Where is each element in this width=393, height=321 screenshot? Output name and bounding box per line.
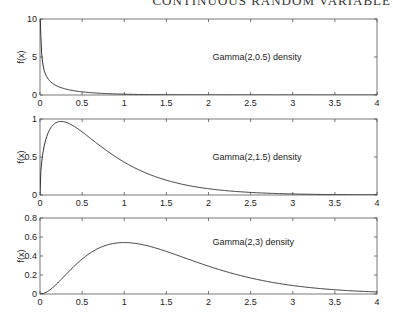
x-tick-label: 0.5 bbox=[76, 98, 89, 108]
x-tick-label: 0 bbox=[37, 198, 42, 208]
x-tick-label: 3 bbox=[290, 297, 295, 307]
x-tick-label: 3.5 bbox=[329, 198, 342, 208]
x-tick-label: 4 bbox=[374, 98, 379, 108]
x-tick-label: 3.5 bbox=[329, 98, 342, 108]
density-annotation: Gamma(2,1.5) density bbox=[213, 152, 303, 162]
x-tick-label: 2.5 bbox=[244, 297, 257, 307]
density-curve bbox=[40, 121, 377, 195]
x-tick-label: 2.5 bbox=[244, 198, 257, 208]
y-tick-label: 5 bbox=[32, 52, 37, 62]
density-annotation: Gamma(2,0.5) density bbox=[213, 52, 303, 62]
y-axis-label: f(x) bbox=[16, 51, 26, 64]
y-tick-label: 0.5 bbox=[24, 152, 37, 162]
x-tick-label: 3 bbox=[290, 98, 295, 108]
density-curve bbox=[40, 14, 377, 95]
subplot-1: 00.511.522.533.540510f(x)Gamma(2,0.5) de… bbox=[16, 14, 380, 108]
subplot-3: 00.511.522.533.5400.20.40.60.8f(x)Gamma(… bbox=[16, 213, 380, 307]
x-tick-label: 0 bbox=[37, 98, 42, 108]
x-tick-label: 4 bbox=[374, 198, 379, 208]
x-tick-label: 0.5 bbox=[76, 198, 89, 208]
x-tick-label: 2 bbox=[206, 98, 211, 108]
x-tick-label: 1.5 bbox=[160, 297, 173, 307]
density-curve bbox=[40, 243, 377, 294]
figure: 00.511.522.533.540510f(x)Gamma(2,0.5) de… bbox=[0, 0, 393, 321]
y-tick-label: 10 bbox=[27, 14, 37, 24]
y-axis-label: f(x) bbox=[16, 250, 26, 263]
x-tick-label: 1 bbox=[122, 198, 127, 208]
y-tick-label: 0.8 bbox=[24, 213, 37, 223]
axes-frame bbox=[40, 119, 377, 195]
x-tick-label: 2 bbox=[206, 297, 211, 307]
x-tick-label: 0.5 bbox=[76, 297, 89, 307]
x-tick-label: 1.5 bbox=[160, 198, 173, 208]
y-tick-label: 0 bbox=[32, 190, 37, 200]
x-tick-label: 3.5 bbox=[329, 297, 342, 307]
density-annotation: Gamma(2,3) density bbox=[213, 237, 295, 247]
x-tick-label: 3 bbox=[290, 198, 295, 208]
y-tick-label: 0 bbox=[32, 90, 37, 100]
x-tick-label: 1.5 bbox=[160, 98, 173, 108]
y-tick-label: 0.4 bbox=[24, 251, 37, 261]
y-axis-label: f(x) bbox=[16, 151, 26, 164]
x-tick-label: 1 bbox=[122, 98, 127, 108]
subplot-2: 00.511.522.533.5400.51f(x)Gamma(2,1.5) d… bbox=[16, 114, 380, 208]
axes-frame bbox=[40, 218, 377, 294]
x-tick-label: 2 bbox=[206, 198, 211, 208]
y-tick-label: 0.6 bbox=[24, 232, 37, 242]
x-tick-label: 4 bbox=[374, 297, 379, 307]
x-tick-label: 2.5 bbox=[244, 98, 257, 108]
x-tick-label: 0 bbox=[37, 297, 42, 307]
x-tick-label: 1 bbox=[122, 297, 127, 307]
y-tick-label: 1 bbox=[32, 114, 37, 124]
y-tick-label: 0.2 bbox=[24, 270, 37, 280]
y-tick-label: 0 bbox=[32, 289, 37, 299]
axes-frame bbox=[40, 19, 377, 95]
